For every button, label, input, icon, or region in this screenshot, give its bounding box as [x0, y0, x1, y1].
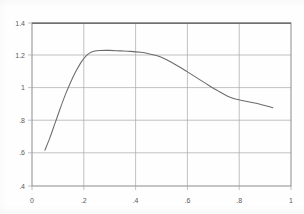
y-tick-label-1.2: 1.2 [15, 52, 25, 59]
x-tick-marks [32, 186, 291, 190]
x-axis-tick-labels: 0 .2 .4 .6 .8 1 [30, 197, 293, 204]
y-tick-label-0.8: .8 [19, 117, 25, 124]
y-tick-label-0.6: .6 [19, 149, 25, 156]
x-tick-label-0: 0 [30, 197, 34, 204]
x-tick-label-0.2: .2 [81, 197, 87, 204]
data-series-curve [45, 50, 273, 150]
y-tick-marks [28, 23, 32, 186]
x-tick-label-0.8: .8 [236, 197, 242, 204]
chart-figure: 1.4 1.2 1 .8 .6 .4 0 .2 .4 .6 .8 1 [0, 0, 304, 214]
plot-frame [32, 23, 291, 186]
x-tick-label-1: 1 [289, 197, 293, 204]
y-tick-label-1: 1 [21, 84, 25, 91]
y-axis-tick-labels: 1.4 1.2 1 .8 .6 .4 [15, 20, 25, 190]
x-tick-label-0.4: .4 [133, 197, 139, 204]
y-tick-label-1.4: 1.4 [15, 20, 25, 27]
y-tick-label-0.4: .4 [19, 183, 25, 190]
line-chart: 1.4 1.2 1 .8 .6 .4 0 .2 .4 .6 .8 1 [0, 0, 304, 214]
horizontal-gridlines [32, 55, 291, 153]
vertical-gridlines [84, 23, 239, 186]
x-tick-label-0.6: .6 [184, 197, 190, 204]
